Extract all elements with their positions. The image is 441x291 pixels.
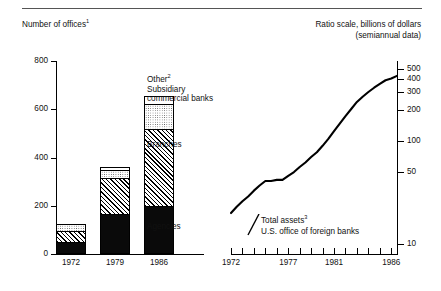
left-y-tick-label: 800 <box>8 56 48 65</box>
right-x-tick <box>254 248 255 254</box>
left-y-tick-label: 0 <box>8 249 48 258</box>
bar-1972 <box>56 61 86 254</box>
right-x-tick <box>345 248 346 254</box>
right-y-tick-label: 400 <box>407 74 437 83</box>
legend-subsidiary-label-line1: Subsidiary <box>147 85 185 94</box>
right-y-tick <box>398 172 404 173</box>
right-x-label-1981: 1981 <box>314 258 354 267</box>
left-y-tick-label: 600 <box>8 104 48 113</box>
bar-segment-branches-1972 <box>56 231 86 242</box>
left-x-label-1972: 1972 <box>48 258 94 267</box>
right-x-tick <box>242 248 243 254</box>
right-x-label-1986: 1986 <box>371 258 411 267</box>
left-y-tick <box>51 254 57 255</box>
left-y-tick-label: 200 <box>8 201 48 210</box>
right-x-tick <box>300 248 301 254</box>
annotation-footnote: 3 <box>304 214 307 220</box>
total-assets-polyline <box>231 76 397 213</box>
annotation-line1: Total assets <box>261 216 304 225</box>
right-x-tick <box>323 248 324 254</box>
right-y-tick-label: 500 <box>407 64 437 73</box>
left-x-axis-line <box>56 254 204 255</box>
right-x-label-1972: 1972 <box>211 258 251 267</box>
right-x-tick <box>357 248 358 254</box>
bar-segment-agencies-1972 <box>56 242 86 254</box>
total-assets-annotation: Total assets3U.S. office of foreign bank… <box>261 216 359 237</box>
bar-segment-branches-1979 <box>100 178 130 214</box>
annotation-line2: U.S. office of foreign banks <box>261 227 359 236</box>
right-y-tick <box>398 110 404 111</box>
bar-segment-subsidiary-1986 <box>144 104 174 128</box>
right-chart-panel: 1050100200300400500 1972197719811986 Tot… <box>215 0 441 291</box>
bar-segment-agencies-1979 <box>100 214 130 254</box>
right-x-tick <box>265 248 266 254</box>
right-y-tick <box>398 79 404 80</box>
bar-segment-subsidiary-1972 <box>56 224 86 231</box>
right-y-tick-label: 10 <box>407 239 437 248</box>
legend-subsidiary-label-line2: commercial banks <box>147 94 213 103</box>
legend-other-label: Other <box>147 75 167 84</box>
right-y-axis-line <box>397 61 398 255</box>
right-x-tick <box>288 248 289 254</box>
right-x-tick <box>368 248 369 254</box>
right-x-tick <box>311 248 312 254</box>
legend-agencies: Agencies <box>147 222 181 232</box>
bar-1979 <box>100 61 130 254</box>
bar-segment-other-1979 <box>100 167 130 169</box>
right-x-axis-line <box>231 254 398 255</box>
right-y-tick <box>398 92 404 93</box>
right-y-tick-label: 100 <box>407 136 437 145</box>
right-x-tick <box>391 248 392 254</box>
left-y-tick-label: 400 <box>8 153 48 162</box>
right-y-tick <box>398 141 404 142</box>
right-x-label-1977: 1977 <box>268 258 308 267</box>
right-y-tick-label: 200 <box>407 105 437 114</box>
right-y-tick <box>398 69 404 70</box>
legend-other-footnote: 2 <box>167 73 170 79</box>
right-y-tick <box>398 244 404 245</box>
left-chart-panel: 0200400600800 197219791986 Other2Subsidi… <box>0 0 215 291</box>
right-y-tick-label: 300 <box>407 87 437 96</box>
right-x-tick <box>334 248 335 254</box>
right-x-tick <box>380 248 381 254</box>
bar-segment-subsidiary-1979 <box>100 170 130 178</box>
right-x-tick <box>277 248 278 254</box>
right-x-tick <box>231 248 232 254</box>
annotation-leader-line <box>247 214 261 236</box>
right-y-tick-label: 50 <box>407 167 437 176</box>
legend-other-subsidiary: Other2Subsidiarycommercial banks <box>147 75 213 104</box>
left-x-label-1986: 1986 <box>136 258 182 267</box>
legend-branches: Branches <box>147 140 182 150</box>
left-x-label-1979: 1979 <box>92 258 138 267</box>
